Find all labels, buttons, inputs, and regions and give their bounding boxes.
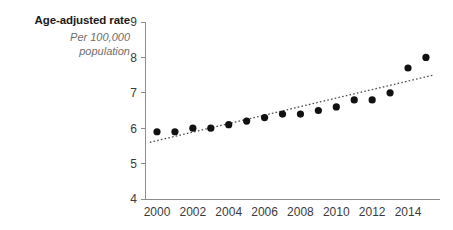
y-axis: 456789	[130, 15, 145, 206]
x-axis-tick-label: 2006	[251, 205, 278, 219]
data-point	[189, 125, 196, 132]
data-point	[207, 125, 214, 132]
x-axis-tick-label: 2014	[395, 205, 422, 219]
trend-line	[150, 75, 433, 142]
data-point	[225, 121, 232, 128]
data-point	[261, 114, 268, 121]
data-point	[369, 96, 376, 103]
y-axis-tick-label: 8	[130, 51, 137, 65]
data-point	[171, 128, 178, 135]
data-point	[315, 107, 322, 114]
chart-figure: Age-adjusted rate Per 100,000 population…	[0, 0, 453, 230]
data-point	[333, 103, 340, 110]
data-point	[243, 118, 250, 125]
data-point	[297, 110, 304, 117]
y-axis-tick-label: 4	[130, 192, 137, 206]
x-axis: 20002002200420062008201020122014	[144, 200, 440, 220]
data-point	[153, 128, 160, 135]
y-axis-tick-label: 6	[130, 122, 137, 136]
x-axis-tick-label: 2004	[215, 205, 242, 219]
scatter-plot: 456789 20002002200420062008201020122014	[0, 0, 453, 230]
data-point	[279, 110, 286, 117]
x-axis-tick-label: 2000	[144, 205, 171, 219]
y-axis-tick-label: 5	[130, 157, 137, 171]
data-points	[153, 54, 429, 136]
data-point	[422, 54, 429, 61]
data-point	[404, 64, 411, 71]
y-axis-tick-label: 9	[130, 15, 137, 29]
data-point	[386, 89, 393, 96]
x-axis-tick-label: 2010	[323, 205, 350, 219]
x-axis-tick-label: 2008	[287, 205, 314, 219]
y-axis-tick-label: 7	[130, 86, 137, 100]
data-point	[351, 96, 358, 103]
x-axis-tick-label: 2002	[180, 205, 207, 219]
x-axis-tick-label: 2012	[359, 205, 386, 219]
